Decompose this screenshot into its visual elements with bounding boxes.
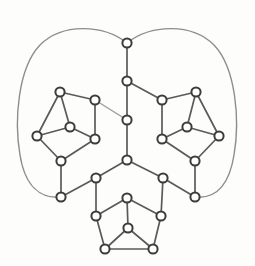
graph-edge xyxy=(95,100,127,120)
graph-node-apex xyxy=(122,38,131,47)
graph-node-s4 xyxy=(122,155,131,164)
graph-node-bt xyxy=(122,193,131,202)
graph-node-bc xyxy=(123,223,132,232)
graph-canvas xyxy=(0,0,255,266)
graph-node-bbl xyxy=(100,244,109,253)
graph-node-lb xyxy=(56,156,65,165)
graph-node-bbr xyxy=(148,244,157,253)
graph-node-lr xyxy=(90,134,99,143)
graph-node-s2 xyxy=(122,76,131,85)
graph-node-rout xyxy=(190,192,199,201)
graph-node-lout xyxy=(56,192,65,201)
graph-node-br xyxy=(156,211,165,220)
graph-edge xyxy=(61,178,96,197)
graph-edge xyxy=(37,92,60,136)
graph-edge xyxy=(162,139,195,161)
graph-node-rt xyxy=(191,87,200,96)
graph-node-rtl xyxy=(157,95,166,104)
graph-node-ltr xyxy=(90,95,99,104)
graph-edge xyxy=(127,81,162,100)
graph-node-ml xyxy=(91,173,100,182)
graph-node-bl xyxy=(91,211,100,220)
graph-node-rl xyxy=(157,134,166,143)
graph-node-lc xyxy=(65,122,74,131)
graph-node-rb xyxy=(190,156,199,165)
boundary-curve-left-lobe xyxy=(17,29,127,198)
graph-edge xyxy=(161,178,163,216)
graph-node-ll xyxy=(32,131,41,140)
graph-node-mr xyxy=(158,173,167,182)
graph-edge xyxy=(127,198,161,216)
boundary-curve-right-lobe xyxy=(127,29,237,198)
graph-node-rc xyxy=(182,122,191,131)
graph-edge xyxy=(127,160,163,178)
graph-node-lt xyxy=(55,87,64,96)
graph-figure xyxy=(0,0,255,266)
graph-edge xyxy=(196,92,219,136)
graph-node-rr xyxy=(214,131,223,140)
graph-node-s3 xyxy=(122,115,131,124)
graph-edge xyxy=(61,139,95,161)
edge-layer xyxy=(37,43,219,249)
